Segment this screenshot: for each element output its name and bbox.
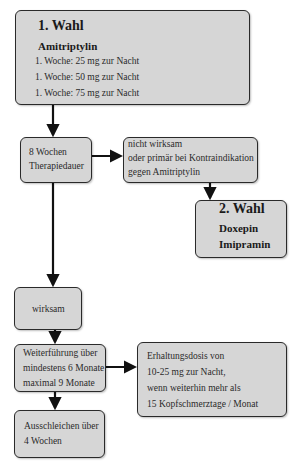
taper-box — [14, 410, 105, 458]
continuation-line-3: maximal 9 Monate — [23, 377, 95, 389]
first-choice-dose-1: 1. Woche: 25 mg zur Nacht — [35, 55, 139, 67]
therapy-duration-line-1: 8 Wochen — [29, 146, 67, 158]
therapy-duration-line-2: Therapiedauer — [29, 160, 84, 172]
continuation-line-2: mindestens 6 Monate — [23, 362, 104, 374]
not-effective-line-2: oder primär bei Kontraindikation — [128, 152, 254, 164]
maintenance-line-3: wenn weiterhin mehr als — [147, 382, 241, 394]
second-choice-title: 2. Wahl — [219, 203, 265, 215]
second-choice-drug-1: Doxepin — [219, 222, 258, 234]
effective-label: wirksam — [32, 303, 65, 315]
not-effective-line-1: nicht wirksam — [128, 138, 182, 150]
first-choice-drug: Amitriptylin — [38, 40, 97, 52]
maintenance-line-1: Erhaltungsdosis von — [147, 350, 224, 362]
first-choice-title: 1. Wahl — [38, 20, 84, 32]
maintenance-line-2: 10-25 mg zur Nacht, — [147, 366, 226, 378]
not-effective-line-3: gegen Amitriptylin — [128, 166, 200, 178]
second-choice-drug-2: Imipramin — [219, 238, 270, 250]
taper-line-1: Ausschleichen über — [24, 420, 99, 432]
taper-line-2: 4 Wochen — [24, 435, 62, 447]
continuation-line-1: Weiterführung über — [23, 347, 97, 359]
maintenance-line-4: 15 Kopfschmerztage / Monat — [147, 398, 258, 410]
first-choice-dose-2: 1. Woche: 50 mg zur Nacht — [35, 71, 139, 83]
first-choice-dose-3: 1. Woche: 75 mg zur Nacht — [35, 87, 139, 99]
